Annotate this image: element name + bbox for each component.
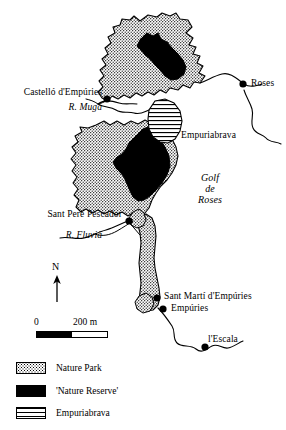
- empuriabrava-zone: [148, 99, 182, 143]
- legend-swatch-nature-park: [16, 362, 46, 374]
- legend-item-nature-reserve: 'Nature Reserve': [16, 384, 118, 398]
- scale-bar-segment-dark: [37, 332, 72, 337]
- marker-roses: [239, 80, 246, 87]
- place-label-roses: Roses: [251, 79, 274, 89]
- coastline-roses-east: [244, 90, 281, 144]
- marker-castello-dempuries: [103, 95, 110, 102]
- marker-empuries: [159, 305, 166, 312]
- map-root: Castelló d'Empúries R. Muga Roses Empuri…: [0, 0, 286, 430]
- legend-item-nature-park: Nature Park: [16, 361, 102, 375]
- legend-label-nature-park: Nature Park: [56, 363, 102, 373]
- river-label-fluvia: R. Fluvià: [20, 231, 102, 241]
- legend-item-empuriabrava: Empuriabrava: [16, 406, 110, 420]
- scale-bar-start-label: 0: [34, 317, 39, 327]
- place-label-sant-marti-demuries: Sant Martí d'Empúries: [164, 292, 252, 302]
- scale-bar: [36, 331, 108, 338]
- place-label-empuries: Empúries: [171, 304, 208, 314]
- place-label-lescala: l'Escala: [208, 335, 238, 345]
- legend-swatch-empuriabrava: [16, 407, 46, 419]
- water-label-golf-de-roses: Golf de Roses: [181, 172, 239, 206]
- place-label-sant-pere-pescador: Sant Pere Pescador: [10, 210, 122, 220]
- north-arrow-icon: [53, 275, 61, 302]
- place-label-empuriabrava: Empuriabrava: [181, 131, 236, 141]
- legend-label-nature-reserve: 'Nature Reserve': [56, 386, 118, 396]
- marker-sant-pere-pescador: [125, 217, 132, 224]
- river-muga: [98, 104, 149, 114]
- legend-swatch-nature-reserve: [16, 385, 46, 397]
- water-label-line-1: Golf: [181, 172, 239, 183]
- river-label-muga: R. Muga: [14, 103, 102, 113]
- water-label-line-2: de: [181, 183, 239, 194]
- marker-sant-marti-dempuries: [153, 294, 160, 301]
- north-arrow-label: N: [52, 261, 59, 272]
- legend-label-empuriabrava: Empuriabrava: [56, 408, 110, 418]
- scale-bar-end-label: 200 m: [73, 317, 97, 327]
- scale-bar-segment-light: [72, 332, 107, 337]
- water-label-line-3: Roses: [181, 194, 239, 205]
- place-label-castello-dempuries: Castelló d'Empúries: [4, 88, 102, 98]
